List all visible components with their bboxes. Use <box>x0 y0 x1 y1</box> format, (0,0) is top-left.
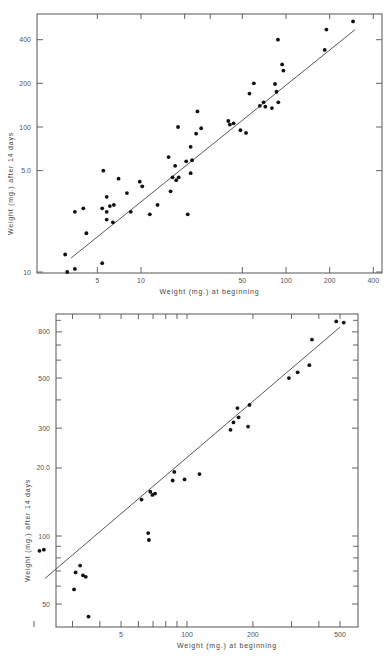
data-point <box>156 203 160 207</box>
x-tick-label: 400 <box>367 277 379 284</box>
x-tick-label: 200 <box>324 277 336 284</box>
data-point <box>171 175 175 179</box>
data-point <box>129 210 133 214</box>
data-point <box>232 421 236 425</box>
x-axis-title: Weight (mg.) at beginning <box>177 642 277 650</box>
y-axis-title: Weight (mg.) after 14 days <box>24 479 32 582</box>
data-point <box>105 218 109 222</box>
data-point <box>248 92 252 96</box>
data-point <box>183 478 187 482</box>
data-point <box>273 82 277 86</box>
data-point <box>100 261 104 265</box>
data-point <box>74 571 78 575</box>
x-tick-label: 5 <box>119 631 123 638</box>
data-point <box>229 428 233 432</box>
data-point <box>280 63 284 67</box>
regression-line <box>45 327 340 578</box>
data-point <box>287 376 291 380</box>
data-point <box>252 81 256 85</box>
data-point <box>72 588 76 592</box>
y-tick-label: 300 <box>38 425 50 432</box>
data-point <box>146 531 150 535</box>
data-point <box>73 267 77 271</box>
data-point <box>38 549 42 553</box>
data-point <box>232 121 236 125</box>
data-point <box>275 90 279 94</box>
x-tick-label: 5 <box>95 277 99 284</box>
data-point <box>111 220 115 224</box>
x-axis-title: Weight (mg.) at beginning <box>159 288 259 296</box>
data-point <box>117 177 121 181</box>
data-point <box>173 164 177 168</box>
data-point <box>270 106 274 110</box>
data-point <box>199 126 203 130</box>
x-tick-label: 50 <box>238 277 246 284</box>
y-tick-label: 10 <box>23 269 31 276</box>
data-point <box>87 615 91 619</box>
plot-frame <box>56 314 358 627</box>
data-point <box>236 406 240 410</box>
data-point <box>325 28 329 32</box>
data-point <box>258 104 262 108</box>
figure: 51050100200400105.0100200400Weight (mg.)… <box>0 0 392 656</box>
y-tick-label: 400 <box>19 36 31 43</box>
data-point <box>148 490 152 494</box>
data-point <box>63 253 67 257</box>
data-point <box>153 492 157 496</box>
y-tick-label: 800 <box>38 328 50 335</box>
data-point <box>147 538 151 542</box>
data-point <box>228 123 232 127</box>
x-tick-label: 200 <box>247 631 259 638</box>
data-point <box>190 158 194 162</box>
y-tick-label: 100 <box>19 124 31 131</box>
bottom-scatter-chart: 51002005005010020.0300500800Weight (mg.)… <box>24 314 358 650</box>
data-point <box>108 204 112 208</box>
data-point <box>169 189 173 193</box>
data-point <box>194 132 198 136</box>
y-tick-label: 100 <box>38 533 50 540</box>
data-point <box>78 564 82 568</box>
y-axis-title: Weight (mg.) after 14 days <box>7 132 15 235</box>
data-point <box>189 171 193 175</box>
x-tick-label: 500 <box>334 631 346 638</box>
data-point <box>246 425 250 429</box>
data-point <box>184 159 188 163</box>
data-point <box>198 472 202 476</box>
data-point <box>73 210 77 214</box>
y-tick-label: 20.0 <box>36 464 50 471</box>
data-point <box>81 206 85 210</box>
data-point <box>351 19 355 23</box>
data-point <box>125 191 129 195</box>
data-point <box>140 498 144 502</box>
data-point <box>65 270 69 274</box>
y-tick-label: 5.0 <box>21 167 31 174</box>
data-point <box>239 128 243 132</box>
data-point <box>310 338 314 342</box>
data-point <box>176 125 180 129</box>
data-point <box>171 479 175 483</box>
data-point <box>174 178 178 182</box>
data-point <box>189 145 193 149</box>
data-point <box>84 231 88 235</box>
data-point <box>244 131 248 135</box>
data-point <box>237 415 241 419</box>
x-tick-label: 100 <box>280 277 292 284</box>
data-point <box>296 370 300 374</box>
y-tick-label: 50 <box>42 601 50 608</box>
data-point <box>196 110 200 114</box>
data-point <box>101 169 105 173</box>
x-tick-label: 100 <box>181 631 193 638</box>
x-tick-label: 10 <box>137 277 145 284</box>
data-point <box>248 403 252 407</box>
data-point <box>84 575 88 579</box>
data-point <box>172 470 176 474</box>
data-point <box>105 210 109 214</box>
data-point <box>112 203 116 207</box>
data-point <box>282 69 286 73</box>
data-point <box>105 195 109 199</box>
top-scatter-chart: 51050100200400105.0100200400Weight (mg.)… <box>7 14 382 296</box>
data-point <box>167 155 171 159</box>
data-point <box>177 175 181 179</box>
data-point <box>262 100 266 104</box>
data-point <box>140 184 144 188</box>
